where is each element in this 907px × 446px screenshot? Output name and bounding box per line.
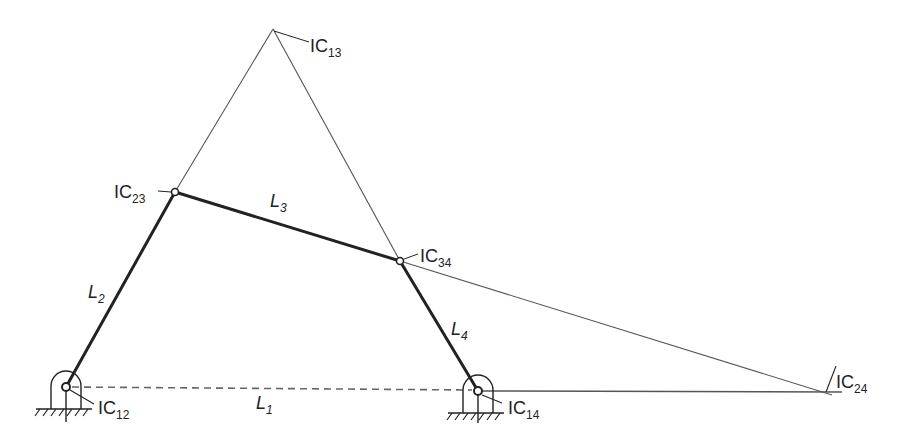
linkage-diagram: IC13 IC23 IC34 IC24 IC12 IC14 L1 L2 L3 L… (0, 0, 907, 446)
label-ic12: IC12 (98, 398, 130, 422)
leader-ic12 (70, 390, 94, 404)
pin-ic14 (474, 387, 482, 395)
ground-pivot-ic12 (35, 371, 92, 422)
label-ic34: IC34 (420, 246, 452, 270)
leader-ic14 (482, 395, 502, 403)
construction-line-ic13-ic34 (273, 29, 400, 261)
link-l1-ground (72, 387, 472, 390)
construction-line-ic34-ic24 (400, 261, 832, 395)
ground-pivot-ic14 (447, 375, 504, 423)
label-l1: L1 (256, 393, 273, 417)
pin-ic34 (397, 258, 404, 265)
label-l3: L3 (270, 191, 287, 215)
construction-line-ic23-ic13 (175, 29, 273, 192)
label-ic14: IC14 (508, 398, 540, 422)
link-l3-coupler (175, 192, 400, 261)
label-l4: L4 (451, 319, 468, 343)
leader-ic34 (404, 254, 418, 259)
label-ic13: IC13 (310, 36, 342, 60)
construction-line-ic14-ic24 (478, 391, 842, 392)
link-l4-rocker (400, 261, 478, 391)
link-l2-crank (66, 192, 175, 387)
leader-ic23 (158, 191, 171, 192)
pin-ic12 (62, 383, 70, 391)
label-l2: L2 (88, 282, 105, 306)
leader-ic24 (826, 366, 836, 392)
pin-ic23 (172, 189, 179, 196)
label-ic23: IC23 (114, 182, 146, 206)
